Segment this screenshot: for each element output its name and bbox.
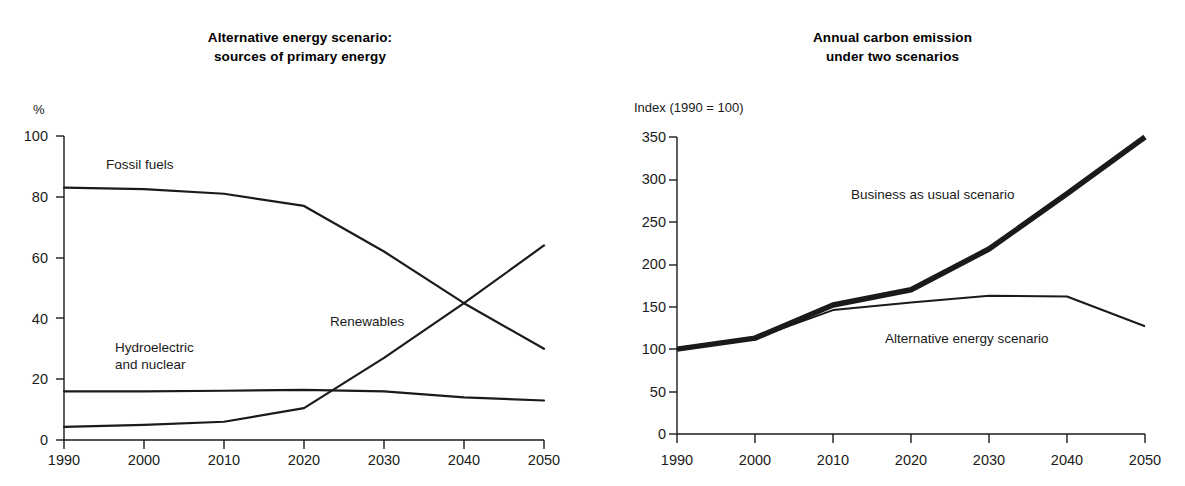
series-line-renewables <box>64 245 544 426</box>
series-line-hydroelectric-and-nuclear <box>64 390 544 401</box>
axis-lines-right <box>677 137 1145 434</box>
axis-lines-left <box>64 136 544 440</box>
x-axis-ticks-right <box>677 434 1145 443</box>
y-axis-ticks-left <box>56 136 64 440</box>
panel-alternative-energy-scenario: Alternative energy scenario: sources of … <box>0 0 600 486</box>
plot-area-left <box>0 0 600 486</box>
x-axis-ticks-left <box>64 440 544 449</box>
y-axis-ticks-right <box>669 137 677 434</box>
plot-area-right <box>600 0 1185 486</box>
panel-annual-carbon-emission: Annual carbon emission under two scenari… <box>600 0 1185 486</box>
series-line-fossil-fuels <box>64 188 544 349</box>
series-line-business-as-usual-scenario <box>677 137 1145 349</box>
two-panel-line-chart-figure: Alternative energy scenario: sources of … <box>0 0 1185 486</box>
